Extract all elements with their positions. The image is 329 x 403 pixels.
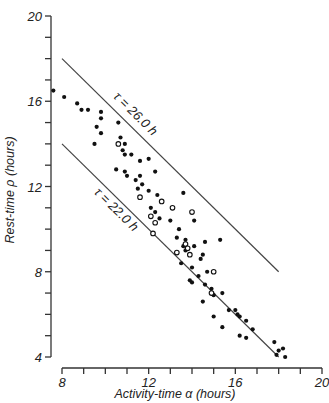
open-point — [153, 220, 158, 225]
axes: 481216208121620 — [27, 9, 329, 390]
filled-point — [138, 174, 142, 178]
filled-point — [244, 336, 248, 340]
filled-point — [138, 159, 142, 163]
filled-point — [177, 227, 181, 231]
data-points — [51, 88, 287, 359]
filled-point — [188, 278, 192, 282]
filled-point — [227, 308, 231, 312]
filled-point — [283, 355, 287, 359]
filled-point — [153, 210, 157, 214]
open-point — [151, 231, 156, 236]
filled-point — [251, 327, 255, 331]
filled-point — [244, 319, 248, 323]
filled-point — [179, 261, 183, 265]
x-tick-label: 8 — [58, 375, 66, 390]
filled-point — [205, 270, 209, 274]
filled-point — [233, 308, 237, 312]
y-tick-label: 8 — [35, 265, 43, 280]
y-tick-label: 4 — [35, 350, 42, 365]
filled-point — [235, 312, 239, 316]
filled-point — [116, 120, 120, 124]
filled-point — [123, 142, 127, 146]
x-tick-label: 20 — [314, 375, 329, 390]
filled-point — [272, 340, 276, 344]
filled-point — [192, 244, 196, 248]
x-axis-label: Activity-time α (hours) — [113, 387, 235, 401]
filled-point — [129, 152, 133, 156]
filled-point — [134, 178, 138, 182]
filled-point — [196, 274, 200, 278]
y-axis-label: Rest-time ρ (hours) — [3, 136, 17, 243]
filled-point — [79, 108, 83, 112]
filled-point — [238, 334, 242, 338]
filled-point — [136, 187, 140, 191]
filled-point — [99, 110, 103, 114]
open-point — [209, 291, 214, 296]
filled-point — [175, 236, 179, 240]
open-point — [116, 142, 121, 147]
tau-label: τ = 22.0 h — [91, 184, 141, 234]
y-tick-label: 16 — [28, 94, 43, 109]
filled-point — [95, 125, 99, 129]
open-point — [138, 195, 143, 200]
filled-point — [220, 325, 224, 329]
filled-point — [218, 238, 222, 242]
filled-point — [147, 189, 151, 193]
filled-point — [199, 257, 203, 261]
filled-point — [190, 265, 194, 269]
filled-point — [99, 116, 103, 120]
filled-point — [212, 314, 216, 318]
filled-point — [157, 216, 161, 220]
filled-point — [192, 219, 196, 223]
filled-point — [121, 148, 125, 152]
filled-point — [277, 349, 281, 353]
filled-point — [99, 131, 103, 135]
filled-point — [62, 95, 66, 99]
open-point — [211, 269, 216, 274]
filled-point — [92, 142, 96, 146]
filled-point — [281, 346, 285, 350]
filled-point — [147, 157, 151, 161]
filled-point — [155, 193, 159, 197]
filled-point — [86, 108, 90, 112]
filled-point — [118, 135, 122, 139]
open-point — [149, 214, 154, 219]
filled-point — [201, 299, 205, 303]
filled-point — [168, 219, 172, 223]
filled-point — [114, 167, 118, 171]
filled-point — [220, 291, 224, 295]
filled-point — [75, 101, 79, 105]
tau-line — [62, 144, 279, 357]
open-point — [159, 199, 164, 204]
scatter-chart: 481216208121620 τ = 26.0 hτ = 22.0 hActi… — [0, 0, 329, 403]
filled-point — [153, 169, 157, 173]
filled-point — [181, 191, 185, 195]
open-point — [170, 206, 175, 211]
y-tick-label: 12 — [28, 180, 43, 195]
tau-line — [62, 59, 279, 272]
filled-point — [125, 174, 129, 178]
filled-point — [140, 182, 144, 186]
filled-point — [274, 353, 278, 357]
filled-point — [51, 88, 55, 92]
open-point — [188, 252, 193, 257]
open-point — [175, 250, 180, 255]
filled-point — [123, 152, 127, 156]
open-point — [190, 210, 195, 215]
y-tick-label: 20 — [27, 9, 43, 24]
filled-point — [149, 206, 153, 210]
filled-point — [203, 282, 207, 286]
filled-point — [201, 253, 205, 257]
filled-point — [203, 240, 207, 244]
open-point — [185, 246, 190, 251]
filled-point — [123, 169, 127, 173]
